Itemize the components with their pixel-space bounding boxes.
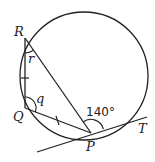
circle-theorem-diagram: R Q P T r q 140° — [0, 0, 155, 162]
label-p-point: P — [85, 139, 95, 154]
angle-label-q: q — [36, 91, 44, 106]
label-r-point: R — [13, 24, 24, 39]
label-t-point: T — [138, 121, 148, 136]
chord-rp — [25, 38, 91, 133]
angle-arc-140 — [83, 119, 103, 129]
angle-label-r: r — [28, 51, 35, 66]
angle-label-140: 140° — [86, 105, 115, 119]
label-q-point: Q — [13, 109, 24, 124]
